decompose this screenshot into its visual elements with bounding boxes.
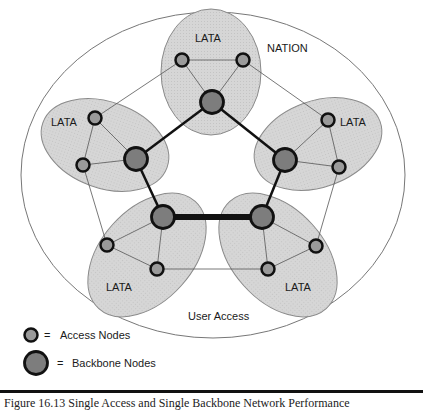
legend-access-label: Access Nodes [60,329,131,341]
legend-backbone-label: Backbone Nodes [72,357,156,369]
backbone-node [251,206,274,229]
access-node [176,54,189,67]
lata-label-left: LATA [51,116,78,128]
access-node [151,263,164,276]
lata-label-bottom-right: LATA [285,281,312,293]
access-node [262,263,275,276]
legend-access-icon [25,329,38,342]
backbone-node [201,91,224,114]
access-node [101,239,114,252]
backbone-node [152,206,175,229]
access-node [89,112,102,125]
caption-divider [0,390,423,393]
nation-label: NATION [267,42,308,54]
access-node [322,114,335,127]
access-node [77,159,90,172]
access-node [237,54,250,67]
backbone-node [274,149,297,172]
access-node [310,240,323,253]
lata-left [28,82,181,208]
lata-label-top: LATA [195,32,222,44]
legend-backbone-equals: = [57,357,63,369]
legend-backbone-icon [25,352,48,375]
access-node [333,161,346,174]
user-access-label: User Access [188,310,250,322]
lata-top [161,9,261,135]
legend: = Access Nodes = Backbone Nodes [25,329,157,375]
lata-label-bottom-left: LATA [106,281,133,293]
network-diagram: LATA LATA LATA LATA LATA NATION User Acc… [0,0,423,390]
lata-label-right: LATA [340,116,367,128]
legend-access-equals: = [44,329,50,341]
figure-caption: Figure 16.13 Single Access and Single Ba… [4,396,350,411]
backbone-node [125,148,148,171]
